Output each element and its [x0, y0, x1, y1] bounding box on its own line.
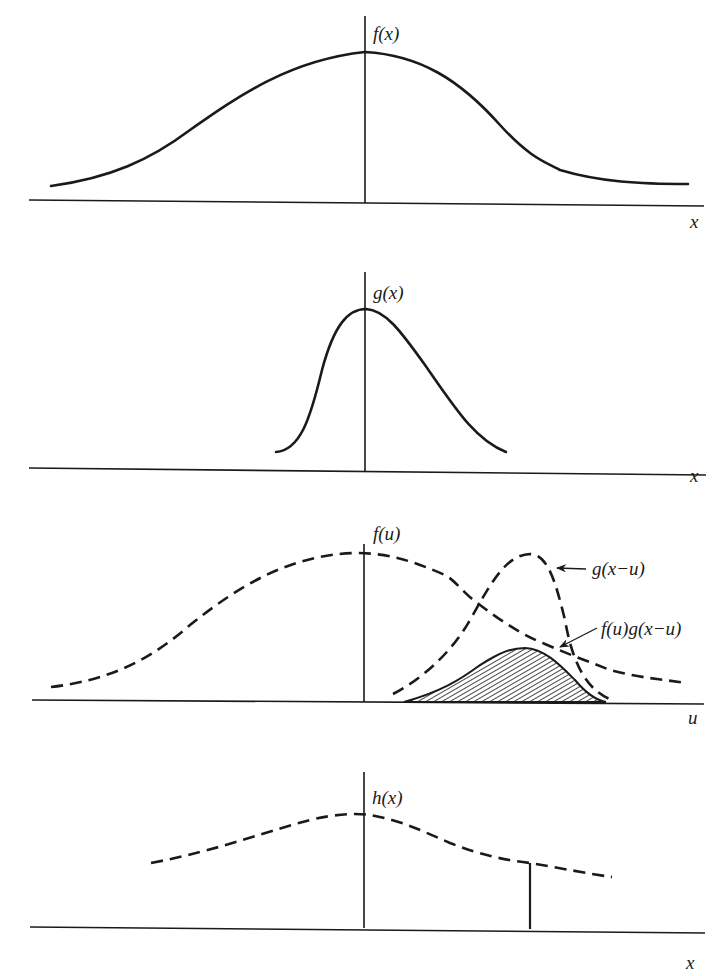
convolution-diagram	[0, 0, 728, 976]
u-axis-label: u	[688, 708, 698, 727]
panel-h	[30, 772, 705, 933]
h-curve	[151, 814, 612, 877]
f-x-label: f(x)	[373, 24, 399, 43]
x-axis-label: x	[690, 466, 698, 485]
x-axis-label: x	[690, 212, 698, 231]
x-axis-label: x	[686, 953, 694, 972]
x-axis	[29, 200, 704, 206]
f-curve	[51, 52, 688, 186]
product-shaded-region	[404, 648, 606, 702]
f-u-curve	[51, 553, 686, 687]
x-axis	[30, 927, 705, 933]
f-u-label: f(u)	[373, 524, 400, 543]
g-x-minus-u-label: g(x−u)	[592, 559, 645, 578]
product-label: f(u)g(x−u)	[601, 619, 681, 638]
panel-f	[29, 16, 704, 206]
x-axis	[29, 468, 706, 475]
g-x-label: g(x)	[373, 283, 404, 302]
g-x-minus-u-arrow	[557, 568, 586, 569]
g-curve	[276, 309, 506, 452]
h-x-label: h(x)	[372, 788, 403, 807]
panel-g	[29, 272, 706, 475]
product-arrow	[560, 628, 597, 647]
